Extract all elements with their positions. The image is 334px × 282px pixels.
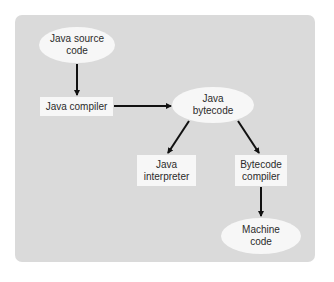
- node-source-line1: Java source: [50, 33, 104, 45]
- node-bccompiler-label: Bytecode compiler: [235, 155, 287, 186]
- node-interpreter-label: Java interpreter: [137, 155, 196, 186]
- arrow-bytecode-to-bccompiler: [238, 121, 259, 153]
- arrow-bytecode-to-interpreter: [168, 121, 189, 153]
- node-machine-label: Machine code: [221, 218, 301, 254]
- node-bytecode-line2: bytecode: [193, 105, 234, 117]
- node-source-label: Java source code: [39, 27, 115, 63]
- node-bccompiler-line2: compiler: [242, 171, 280, 183]
- node-bytecode-label: Java bytecode: [172, 87, 254, 123]
- node-interpreter-line2: interpreter: [144, 171, 190, 183]
- node-machine-line2: code: [250, 236, 272, 248]
- node-interpreter-line1: Java: [156, 159, 177, 171]
- node-bccompiler-line1: Bytecode: [240, 159, 282, 171]
- node-compiler-label: Java compiler: [40, 97, 113, 116]
- node-machine-line1: Machine: [242, 224, 280, 236]
- node-compiler-line1: Java compiler: [46, 101, 108, 113]
- node-bytecode-line1: Java: [202, 93, 223, 105]
- node-source-line2: code: [66, 45, 88, 57]
